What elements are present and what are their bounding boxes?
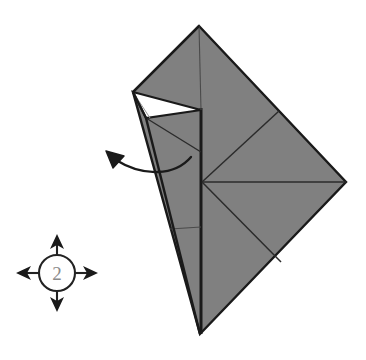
- unfold-arrow-head: [106, 151, 124, 168]
- paper-front-surface: [133, 26, 346, 334]
- step-number-label: 2: [52, 263, 62, 284]
- repeat-steps-symbol: 2: [16, 234, 98, 312]
- origami-diagram: 2: [0, 0, 366, 360]
- paper-model-group: [133, 26, 346, 334]
- origami-figure: 2: [0, 0, 366, 360]
